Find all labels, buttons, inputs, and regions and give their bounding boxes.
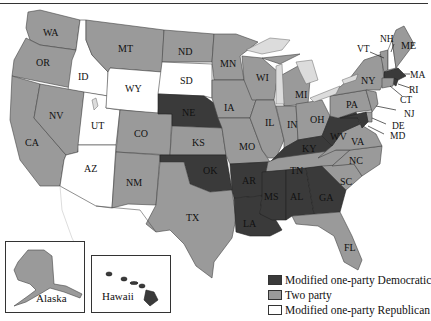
label-NC: NC bbox=[349, 155, 363, 166]
label-ID: ID bbox=[78, 71, 89, 82]
label-NY: NY bbox=[361, 75, 375, 86]
label-SC: SC bbox=[340, 176, 353, 187]
label-AL: AL bbox=[290, 191, 303, 202]
label-OH: OH bbox=[310, 114, 324, 125]
label-IA: IA bbox=[224, 102, 235, 113]
label-VT: VT bbox=[357, 44, 370, 54]
label-KS: KS bbox=[192, 137, 205, 148]
island-kauai[interactable] bbox=[106, 272, 112, 276]
label-ND: ND bbox=[178, 46, 192, 57]
label-OK: OK bbox=[203, 165, 218, 176]
label-MD: MD bbox=[390, 131, 405, 141]
legend-label-two-party: Two party bbox=[285, 289, 332, 301]
label-NM: NM bbox=[126, 177, 142, 188]
leader-DE bbox=[372, 118, 386, 124]
label-DE: DE bbox=[392, 121, 405, 131]
island-oahu[interactable] bbox=[121, 277, 127, 281]
label-WA: WA bbox=[43, 27, 59, 38]
legend-item-democratic: Modified one-party Democratic bbox=[268, 272, 431, 287]
label-NV: NV bbox=[49, 110, 64, 121]
legend-item-two-party: Two party bbox=[268, 287, 431, 302]
label-CA: CA bbox=[25, 137, 40, 148]
legend-item-republican: Modified one-party Republican bbox=[268, 302, 431, 317]
label-LA: LA bbox=[243, 218, 257, 229]
label-AR: AR bbox=[242, 175, 256, 186]
mexico-border bbox=[96, 206, 156, 232]
label-MA: MA bbox=[410, 70, 425, 80]
label-MN: MN bbox=[220, 58, 236, 69]
label-MO: MO bbox=[239, 141, 255, 152]
label-ME: ME bbox=[401, 40, 416, 51]
label-WI: WI bbox=[256, 72, 269, 83]
label-TX: TX bbox=[186, 212, 200, 223]
label-IL: IL bbox=[265, 117, 274, 128]
label-VA: VA bbox=[351, 136, 365, 147]
island-maui[interactable] bbox=[139, 284, 145, 288]
state-AZ[interactable] bbox=[60, 145, 116, 208]
state-CT[interactable] bbox=[382, 78, 394, 88]
label-UT: UT bbox=[91, 120, 104, 131]
map-legend: Modified one-party Democratic Two party … bbox=[268, 272, 431, 317]
legend-label-democratic: Modified one-party Democratic bbox=[285, 274, 431, 286]
island-molokai[interactable] bbox=[130, 282, 138, 285]
label-WY: WY bbox=[125, 83, 142, 94]
label-KY: KY bbox=[302, 143, 316, 154]
label-AZ: AZ bbox=[84, 163, 97, 174]
label-TN: TN bbox=[290, 165, 303, 176]
label-MT: MT bbox=[118, 43, 133, 54]
label-CT: CT bbox=[400, 95, 412, 105]
label-WV: WV bbox=[330, 131, 347, 142]
leader-NJ bbox=[376, 106, 396, 110]
label-NE: NE bbox=[182, 107, 195, 118]
label-CO: CO bbox=[134, 128, 148, 139]
label-NH: NH bbox=[380, 34, 394, 44]
label-FL: FL bbox=[344, 242, 356, 253]
legend-label-republican: Modified one-party Republican bbox=[285, 304, 430, 316]
label-RI: RI bbox=[409, 85, 419, 95]
island-big-island[interactable] bbox=[144, 290, 158, 306]
hawaii-inset: Hawaii bbox=[91, 255, 171, 313]
legend-swatch-two-party bbox=[268, 290, 282, 300]
legend-swatch-democratic bbox=[268, 275, 282, 285]
label-MI: MI bbox=[295, 89, 307, 100]
state-FL[interactable] bbox=[292, 212, 362, 270]
alaska-label: Alaska bbox=[36, 292, 67, 304]
label-OR: OR bbox=[36, 57, 50, 68]
label-MS: MS bbox=[264, 191, 278, 202]
lake-michigan bbox=[276, 64, 284, 104]
label-PA: PA bbox=[346, 99, 359, 110]
label-SD: SD bbox=[180, 75, 193, 86]
alaska-inset: Alaska bbox=[5, 241, 85, 313]
label-IN: IN bbox=[287, 119, 298, 130]
hawaii-shape bbox=[92, 256, 170, 312]
legend-swatch-republican bbox=[268, 305, 282, 315]
label-GA: GA bbox=[319, 192, 334, 203]
hawaii-label: Hawaii bbox=[102, 290, 134, 302]
label-NJ: NJ bbox=[404, 109, 415, 119]
